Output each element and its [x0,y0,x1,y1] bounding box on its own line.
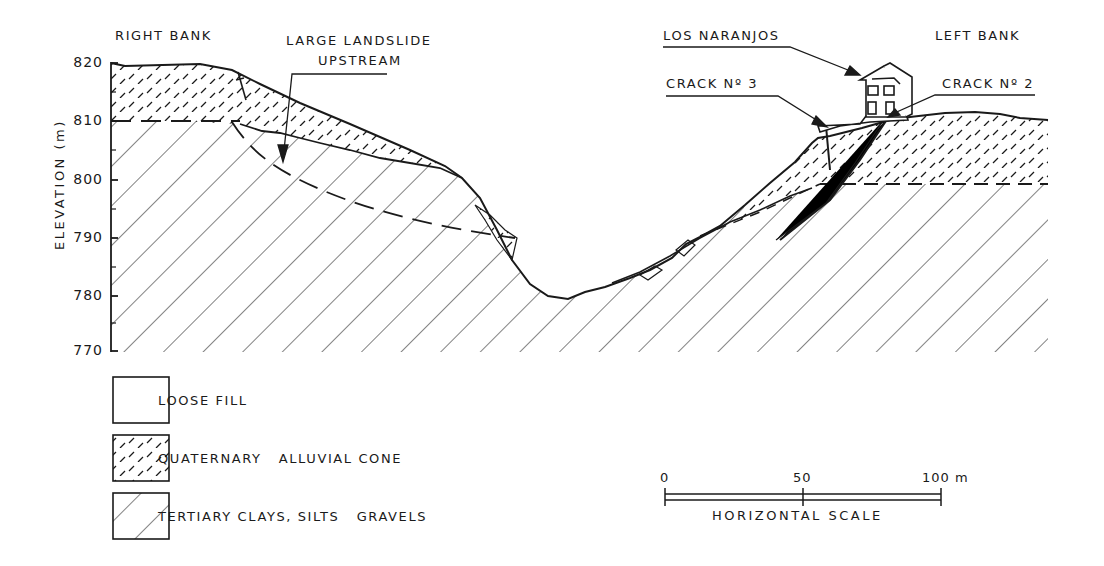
scale-tick-100: 100 m [922,470,969,485]
right-bank-label: RIGHT BANK [115,28,212,43]
landslide-label-line2: UPSTREAM [318,53,402,68]
left-bank-label: LEFT BANK [935,28,1020,43]
legend-label: TERTIARY CLAYS, SILTS GRAVELS [158,509,427,524]
landslide-label-line1: LARGE LANDSLIDE [286,33,432,48]
y-axis-label: ELEVATION (m) [52,119,67,250]
crack-2-label: CRACK Nº 2 [942,76,1034,91]
y-tick-800: 800 [63,171,103,187]
y-tick-820: 820 [63,54,103,70]
crack-3-label: CRACK Nº 3 [666,76,758,91]
los-naranjos-label: LOS NARANJOS [663,28,780,43]
horizontal-scale-bar [665,488,941,506]
y-tick-780: 780 [63,287,103,303]
scale-tick-50: 50 [793,470,812,485]
legend-label: QUATERNARY ALLUVIAL CONE [158,451,402,466]
y-tick-790: 790 [63,229,103,245]
y-tick-770: 770 [63,342,103,358]
legend-label: LOOSE FILL [158,393,248,408]
scale-tick-0: 0 [660,470,669,485]
y-tick-810: 810 [63,112,103,128]
scale-title: HORIZONTAL SCALE [712,508,883,523]
